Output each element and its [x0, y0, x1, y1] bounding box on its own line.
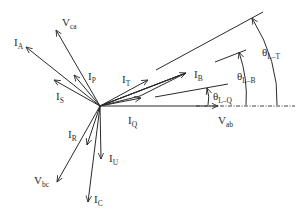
label-v-ca: Vca [62, 16, 77, 31]
label-i-s: IS [56, 90, 64, 105]
angle-label-l-q: θL–Q [213, 90, 233, 105]
label-i-b: IB [194, 68, 203, 83]
phasor-label-group: VabVcaVbcIAIBICIPISITIQIRIUθL–QθL–BθL–T [14, 16, 281, 208]
label-i-u: IU [109, 152, 119, 167]
label-i-p: IP [88, 70, 96, 85]
phasor-i-u [100, 106, 101, 159]
label-i-r: IR [68, 128, 77, 143]
angle-arc-l-q [207, 88, 209, 105]
label-i-c: IC [94, 193, 103, 208]
phasor-diagram: VabVcaVbcIAIBICIPISITIQIRIUθL–QθL–BθL–T [0, 0, 303, 216]
phasor-vector-group [26, 30, 218, 202]
phasor-diagram-canvas: VabVcaVbcIAIBICIPISITIQIRIUθL–QθL–BθL–T [0, 0, 303, 216]
angle-label-l-b: θL–B [237, 70, 256, 85]
phasor-ib-aux-1 [100, 73, 186, 106]
angle-label-l-t: θL–T [262, 46, 281, 61]
angle-arc-l-t [252, 18, 277, 105]
label-v-ab: Vab [218, 114, 233, 129]
phasor-v-ca [56, 30, 100, 106]
phasor-i-c [88, 106, 100, 202]
angle-line-l-t [156, 12, 263, 70]
phasor-i-p [74, 75, 100, 106]
phasor-v-bc [57, 106, 100, 182]
label-i-a: IA [14, 36, 24, 51]
label-i-q: IQ [128, 114, 138, 129]
label-v-bc: Vbc [34, 174, 50, 189]
label-i-t: IT [122, 73, 131, 88]
